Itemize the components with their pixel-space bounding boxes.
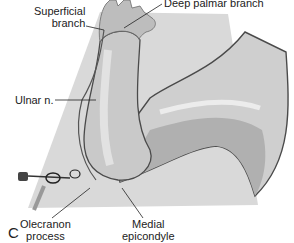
panel-letter: C: [8, 224, 19, 241]
label-superficial-branch: Superficial branch: [34, 5, 85, 29]
label-olecranon-process: Olecranon process: [20, 218, 71, 242]
label-medial-epicondyle: Medial epicondyle: [122, 218, 175, 242]
ulnar-nerve-block-illustration: [0, 0, 294, 243]
label-ulnar-nerve: Ulnar n.: [15, 94, 54, 106]
label-deep-palmar-branch: Deep palmar branch: [164, 0, 264, 9]
